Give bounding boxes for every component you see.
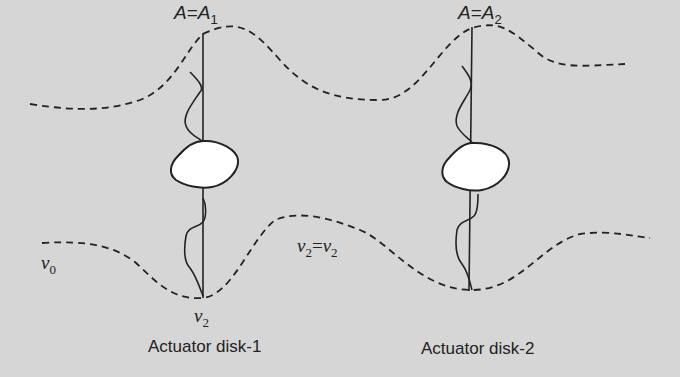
disk-1-shape bbox=[171, 141, 238, 188]
disk-1-area-label: A=A1 bbox=[174, 2, 218, 27]
inlet-velocity-subscript: 0 bbox=[49, 262, 56, 277]
between-rhs-subscript: 2 bbox=[331, 245, 338, 260]
disk-1-downstream-velocity-subscript: 2 bbox=[202, 315, 209, 330]
disk-2-shape bbox=[442, 143, 509, 191]
disk-1-area-equals: = bbox=[187, 2, 198, 23]
disk-1-upper-velocity-profile bbox=[185, 72, 203, 142]
disk-1-area-rhs-symbol: A bbox=[198, 2, 211, 23]
disk-1-area-subscript: 1 bbox=[210, 12, 217, 27]
disk-2-area-label: A=A2 bbox=[458, 2, 502, 27]
streamtube-lower-boundary bbox=[42, 215, 650, 298]
disk-2-lower-velocity-profile bbox=[456, 194, 478, 290]
between-rhs-symbol: v bbox=[323, 235, 331, 256]
disk-2-area-symbol: A bbox=[458, 2, 471, 23]
disk-2-area-rhs-symbol: A bbox=[482, 2, 495, 23]
disk-2-area-equals: = bbox=[471, 2, 482, 23]
actuator-disk-1 bbox=[171, 33, 238, 298]
between-disks-velocity-label: v2=v2 bbox=[297, 235, 338, 261]
disk-1-area-symbol: A bbox=[174, 2, 187, 23]
actuator-disk-2 bbox=[442, 27, 509, 291]
streamtube-upper-boundary bbox=[30, 25, 625, 109]
disk-1-downstream-velocity-label: v2 bbox=[194, 305, 209, 331]
disk-2-caption: Actuator disk-2 bbox=[421, 339, 534, 359]
between-equals: = bbox=[312, 235, 323, 256]
inlet-velocity-label: v0 bbox=[41, 252, 56, 278]
diagram-drawing bbox=[0, 0, 680, 377]
disk-1-caption: Actuator disk-1 bbox=[148, 337, 261, 357]
actuator-disk-diagram: A=A1 A=A2 v0 v2=v2 v2 Actuator disk-1 Ac… bbox=[0, 0, 680, 377]
disk-2-upper-velocity-profile bbox=[456, 66, 472, 142]
disk-2-area-subscript: 2 bbox=[494, 12, 501, 27]
